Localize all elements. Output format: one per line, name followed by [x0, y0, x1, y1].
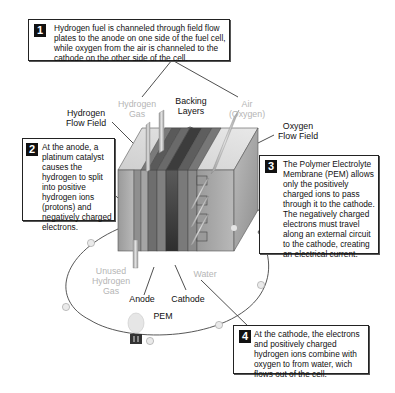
- callout-step-3: 3 The Polymer Electrolyte Membrane (PEM)…: [259, 155, 379, 254]
- callout-step-2: 2 At the anode, a platinum catalyst caus…: [22, 138, 115, 221]
- label-anode: Anode: [126, 294, 158, 304]
- callout-text: Hydrogen fuel is channeled through field…: [54, 23, 226, 63]
- callout-text: At the cathode, the electrons and positi…: [254, 329, 368, 379]
- callout-text: At the anode, a platinum catalyst causes…: [42, 142, 114, 232]
- label-oxygen-flow-field: Oxygen Flow Field: [274, 121, 322, 141]
- fuel-cell-stack: [118, 128, 258, 251]
- label-hydrogen-flow-field: Hydrogen Flow Field: [62, 108, 110, 128]
- callout-step-4: 4 At the cathode, the electrons and posi…: [233, 325, 369, 374]
- fuel-cell-diagram: 1 Hydrogen fuel is channeled through fie…: [0, 0, 395, 393]
- callout-text: The Polymer Electrolyte Membrane (PEM) a…: [283, 159, 378, 259]
- label-unused-hydrogen-gas: Unused Hydrogen Gas: [90, 266, 132, 296]
- light-bulb-icon: [128, 313, 144, 344]
- label-air-oxygen: Air (Oxygen): [226, 99, 268, 119]
- label-backing-layers: Backing Layers: [170, 96, 212, 116]
- step-number-badge: 3: [265, 160, 277, 173]
- label-water: Water: [189, 269, 221, 279]
- step-number-badge: 1: [34, 24, 46, 37]
- step-number-badge: 2: [26, 143, 38, 156]
- label-hydrogen-gas: Hydrogen Gas: [116, 99, 158, 119]
- label-cathode: Cathode: [168, 294, 208, 304]
- callout-step-1: 1 Hydrogen fuel is channeled through fie…: [28, 19, 230, 61]
- label-pem: PEM: [150, 311, 176, 321]
- step-number-badge: 4: [239, 330, 251, 343]
